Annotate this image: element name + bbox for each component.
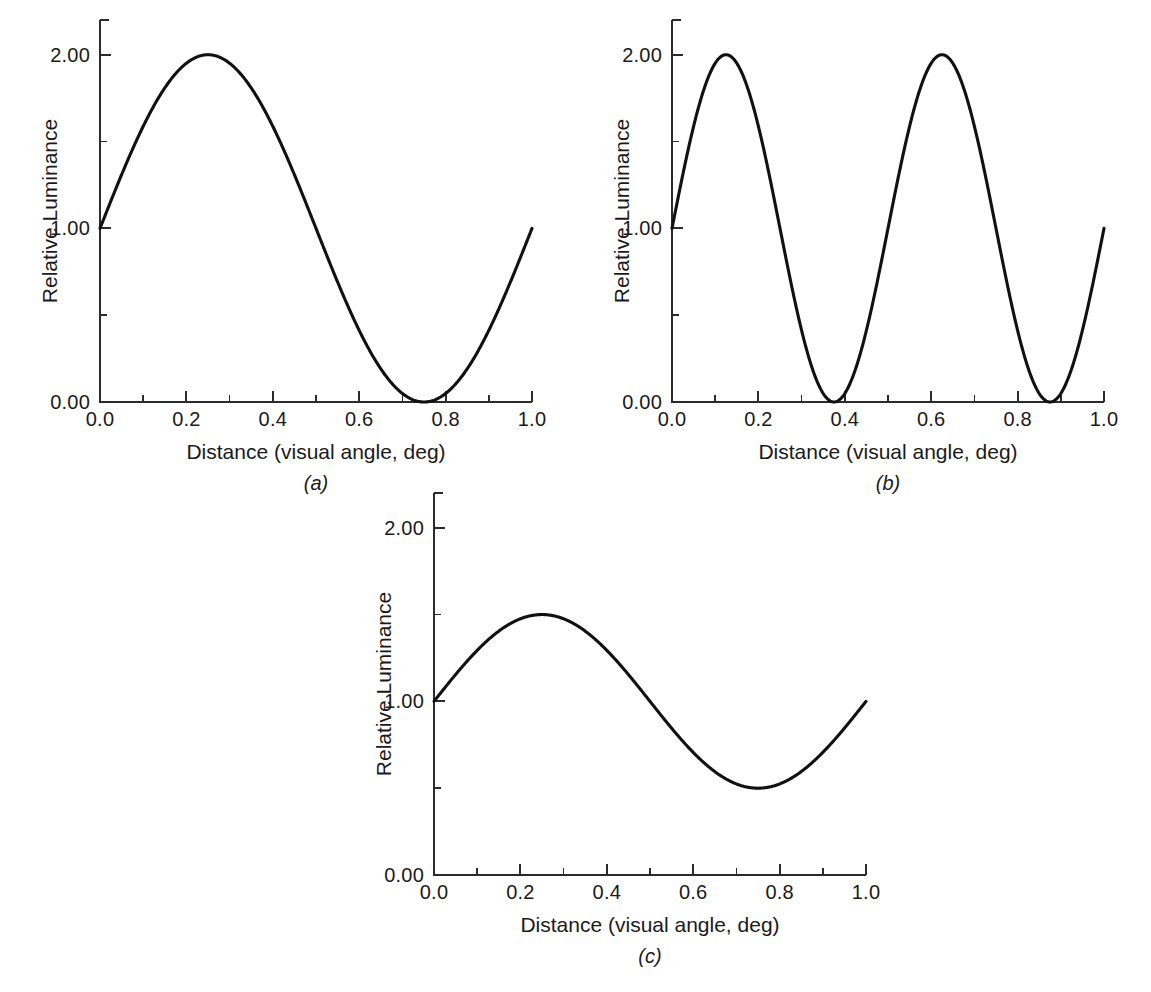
figure-caption bbox=[8, 981, 1108, 992]
x-tick-label: 0.2 bbox=[172, 408, 200, 431]
y-tick-label: 0.00 bbox=[356, 864, 424, 887]
x-tick-label: 0.8 bbox=[1003, 408, 1031, 431]
x-axis-title: Distance (visual angle, deg) bbox=[520, 913, 779, 937]
x-tick-label: 1.0 bbox=[518, 408, 546, 431]
luminance-curve bbox=[672, 55, 1104, 402]
x-ticks bbox=[434, 864, 866, 875]
y-tick-label: 2.00 bbox=[356, 516, 424, 539]
y-axis-title: Relative Luminance bbox=[610, 119, 634, 303]
x-tick-label: 0.2 bbox=[744, 408, 772, 431]
y-axis-title: Relative Luminance bbox=[372, 592, 396, 776]
axes bbox=[672, 20, 1104, 402]
axes bbox=[100, 20, 532, 402]
x-tick-label: 0.6 bbox=[345, 408, 373, 431]
y-tick-label: 2.00 bbox=[22, 43, 90, 66]
x-tick-label: 0.4 bbox=[593, 881, 621, 904]
x-tick-label: 1.0 bbox=[852, 881, 880, 904]
luminance-curve bbox=[434, 615, 866, 789]
x-tick-label: 0.0 bbox=[420, 881, 448, 904]
x-axis-title: Distance (visual angle, deg) bbox=[758, 440, 1017, 464]
y-tick-label: 2.00 bbox=[594, 43, 662, 66]
panel-b: 0.001.002.000.00.20.40.60.81.0Distance (… bbox=[594, 12, 1136, 504]
y-axis-title: Relative Luminance bbox=[38, 119, 62, 303]
x-axis-title: Distance (visual angle, deg) bbox=[186, 440, 445, 464]
x-tick-label: 1.0 bbox=[1090, 408, 1118, 431]
x-tick-label: 0.0 bbox=[86, 408, 114, 431]
x-tick-label: 0.8 bbox=[431, 408, 459, 431]
axes bbox=[434, 493, 866, 875]
x-ticks bbox=[100, 391, 532, 402]
y-tick-label: 0.00 bbox=[594, 391, 662, 414]
y-ticks bbox=[672, 55, 683, 402]
x-tick-label: 0.0 bbox=[658, 408, 686, 431]
panel-letter: (c) bbox=[638, 945, 661, 968]
x-tick-label: 0.2 bbox=[506, 881, 534, 904]
x-tick-label: 0.4 bbox=[831, 408, 859, 431]
luminance-curve bbox=[100, 55, 532, 402]
panel-letter: (a) bbox=[304, 472, 328, 495]
x-tick-label: 0.6 bbox=[679, 881, 707, 904]
y-tick-label: 0.00 bbox=[22, 391, 90, 414]
panel-a: 0.001.002.000.00.20.40.60.81.0Distance (… bbox=[22, 12, 564, 504]
x-tick-label: 0.6 bbox=[917, 408, 945, 431]
x-tick-label: 0.8 bbox=[765, 881, 793, 904]
panel-c: 0.001.002.000.00.20.40.60.81.0Distance (… bbox=[356, 485, 898, 977]
figure-root: 0.001.002.000.00.20.40.60.81.0Distance (… bbox=[0, 0, 1151, 992]
x-tick-label: 0.4 bbox=[259, 408, 287, 431]
